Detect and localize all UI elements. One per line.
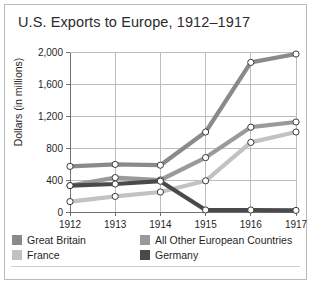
- legend-label-all-other-european-countries: All Other European Countries: [155, 234, 292, 246]
- legend-item-germany: Germany: [140, 249, 302, 261]
- legend-item-all-other-european-countries: All Other European Countries: [140, 234, 302, 246]
- legend-item-france: France: [12, 249, 140, 261]
- svg-text:1915: 1915: [194, 219, 217, 230]
- chart-legend: Great Britain All Other European Countri…: [12, 232, 302, 262]
- legend-item-great-britain: Great Britain: [12, 234, 140, 246]
- legend-swatch-great-britain: [12, 235, 22, 245]
- svg-text:1,200: 1,200: [38, 111, 63, 122]
- legend-divider: [11, 266, 300, 267]
- svg-text:1917: 1917: [285, 219, 308, 230]
- legend-label-great-britain: Great Britain: [27, 234, 86, 246]
- legend-swatch-france: [12, 250, 22, 260]
- svg-text:1912: 1912: [59, 219, 82, 230]
- svg-text:1913: 1913: [104, 219, 127, 230]
- svg-text:1914: 1914: [149, 219, 172, 230]
- svg-text:400: 400: [46, 175, 63, 186]
- chart-figure: U.S. Exports to Europe, 1912–1917 Dollar…: [0, 0, 312, 285]
- legend-swatch-all-other-european-countries: [140, 235, 150, 245]
- legend-label-france: France: [27, 249, 60, 261]
- svg-text:2,000: 2,000: [38, 47, 63, 58]
- svg-text:800: 800: [46, 143, 63, 154]
- svg-text:1,600: 1,600: [38, 79, 63, 90]
- legend-swatch-germany: [140, 250, 150, 260]
- svg-text:1916: 1916: [240, 219, 263, 230]
- legend-label-germany: Germany: [155, 249, 198, 261]
- svg-text:0: 0: [57, 207, 63, 218]
